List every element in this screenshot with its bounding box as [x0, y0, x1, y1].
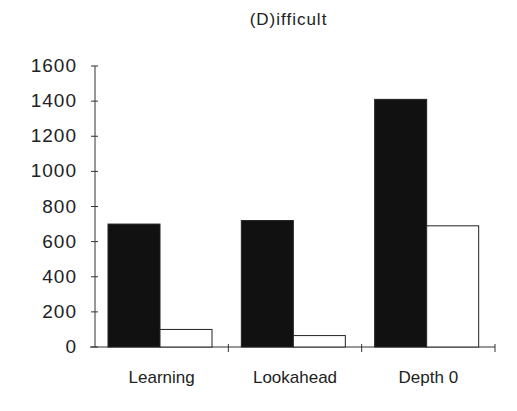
plot-area	[0, 0, 517, 411]
bar	[241, 221, 293, 347]
chart: (D)ifficult 0200400600800100012001400160…	[0, 0, 517, 411]
bar	[427, 226, 479, 347]
bar	[375, 99, 427, 347]
bar	[160, 329, 212, 347]
bar	[293, 336, 345, 347]
bar	[108, 224, 160, 347]
